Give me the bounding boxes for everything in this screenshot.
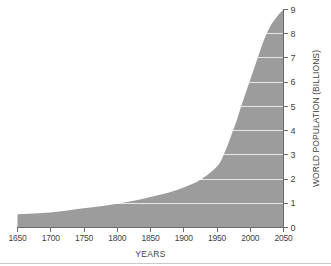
- ytick-label-5: 5: [291, 102, 296, 112]
- x-axis-title: YEARS: [135, 249, 165, 259]
- ytick-label-4: 4: [291, 126, 296, 136]
- xtick-label-1700: 1700: [42, 233, 61, 243]
- ytick-label-3: 3: [291, 150, 296, 160]
- xtick-label-1650: 1650: [8, 233, 27, 243]
- ytick-label-0: 0: [291, 223, 296, 233]
- xtick-label-2050: 2050: [274, 233, 293, 243]
- ytick-label-8: 8: [291, 29, 296, 39]
- ytick-label-7: 7: [291, 53, 296, 63]
- xtick-label-1800: 1800: [108, 233, 127, 243]
- ytick-label-2: 2: [291, 174, 296, 184]
- xtick-label-1750: 1750: [75, 233, 94, 243]
- ytick-label-9: 9: [291, 5, 296, 15]
- xtick-label-1950: 1950: [208, 233, 227, 243]
- chart-plot-svg: 0123456789165017001750180018501900195020…: [0, 0, 331, 266]
- population-area-fill: [18, 10, 284, 228]
- ytick-label-1: 1: [291, 198, 296, 208]
- ytick-label-6: 6: [291, 77, 296, 87]
- world-population-area-chart: 0123456789165017001750180018501900195020…: [0, 0, 331, 266]
- xtick-label-2000: 2000: [241, 233, 260, 243]
- xtick-label-1900: 1900: [175, 233, 194, 243]
- y-axis-title: WORLD POPULATION (BILLIONS): [311, 50, 321, 187]
- xtick-label-1850: 1850: [141, 233, 160, 243]
